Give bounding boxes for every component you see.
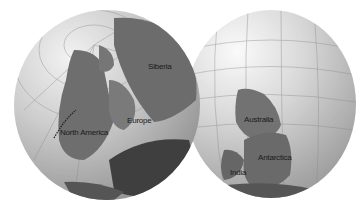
label-australia: Australia <box>244 115 273 124</box>
globe-graticule <box>14 10 200 200</box>
africa-landmass <box>109 139 192 196</box>
label-north-america: North America <box>60 128 108 137</box>
greenland-landmass <box>99 45 114 72</box>
label-siberia: Siberia <box>148 62 172 71</box>
northern-hemisphere-globe: Siberia Europe North America <box>14 10 200 200</box>
label-antarctica: Antarctica <box>258 153 292 162</box>
label-europe: Europe <box>127 116 152 125</box>
label-india: India <box>230 168 246 177</box>
globe-graticule <box>186 10 356 198</box>
southern-hemisphere-globe: Australia Antarctica India <box>186 10 356 198</box>
